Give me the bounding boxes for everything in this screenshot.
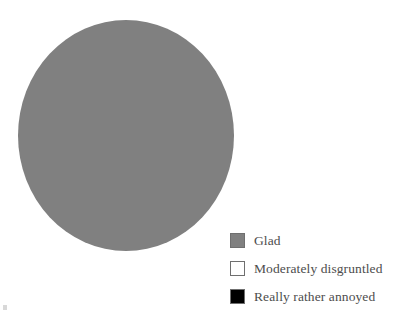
legend-item-really-rather-annoyed[interactable]: Really rather annoyed [230, 282, 410, 310]
pie-chart [18, 20, 234, 251]
legend-label-really-rather-annoyed: Really rather annoyed [254, 289, 375, 304]
legend-label-glad: Glad [254, 233, 281, 248]
chart-legend: Glad Moderately disgruntled Really rathe… [230, 226, 410, 310]
corner-artifact [3, 305, 7, 310]
pie-slice-glad[interactable] [18, 20, 234, 251]
legend-item-moderately-disgruntled[interactable]: Moderately disgruntled [230, 254, 410, 282]
legend-item-glad[interactable]: Glad [230, 226, 410, 254]
legend-swatch-moderately-disgruntled [230, 261, 245, 276]
legend-label-moderately-disgruntled: Moderately disgruntled [254, 261, 383, 276]
legend-swatch-glad [230, 233, 245, 248]
chart-canvas: Glad Moderately disgruntled Really rathe… [0, 0, 417, 318]
legend-swatch-really-rather-annoyed [230, 289, 245, 304]
